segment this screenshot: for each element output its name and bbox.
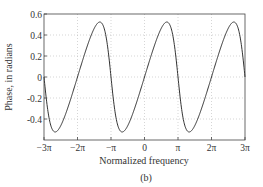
x-tick-label: 2π [207,143,217,153]
x-tick-label: −π [106,143,116,153]
x-tick-label: 3π [240,143,250,153]
y-tick-label: 0.2 [30,52,42,62]
x-axis-label: Normalized frequency [99,155,189,166]
figure-caption: (b) [140,172,152,184]
x-tick-label: π [176,143,181,153]
y-tick-label: -0.2 [27,94,42,104]
y-tick-label: 0.6 [30,10,42,20]
x-tick-label: 0 [142,143,147,153]
y-tick-label: 0.4 [30,31,42,41]
phase-chart: −3π−2π−π0π2π3π 0.60.40.20-0.2-0.4 Normal… [0,0,263,187]
y-axis-label: Phase, in radians [3,43,14,111]
y-tick-label: -0.4 [27,115,42,125]
x-tick-label: −2π [70,143,85,153]
x-axis-ticks: −3π−2π−π0π2π3π [37,137,250,153]
y-tick-label: 0 [37,73,42,83]
x-tick-label: −3π [37,143,52,153]
